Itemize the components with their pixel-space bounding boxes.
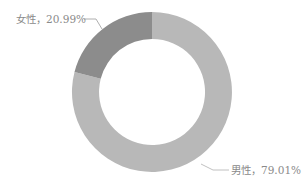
segment-female	[75, 12, 153, 79]
label-female: 女性，20.99%	[16, 13, 86, 25]
donut-chart: 女性，20.99% 男性，79.01%	[0, 0, 308, 182]
label-male: 男性，79.01%	[231, 164, 301, 176]
leader-line-male	[201, 164, 229, 170]
leader-line-female	[84, 19, 102, 29]
